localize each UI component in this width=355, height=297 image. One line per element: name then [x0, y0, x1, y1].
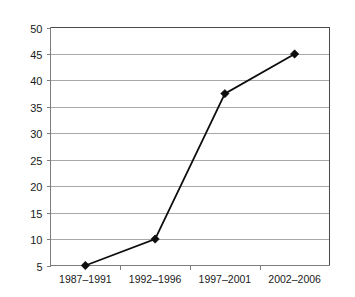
- y-tick-label: 30: [30, 128, 42, 140]
- chart-canvas: 5101520253035404550 1987–19911992–199619…: [0, 0, 355, 297]
- y-tick-label: 20: [30, 181, 42, 193]
- y-tick-label: 35: [30, 102, 42, 114]
- line-chart: 5101520253035404550 1987–19911992–199619…: [0, 0, 355, 297]
- y-tick-label: 50: [30, 23, 42, 35]
- x-tick-label: 2002–2006: [268, 273, 321, 285]
- y-tick-label: 5: [36, 261, 42, 273]
- y-tick-label: 40: [30, 75, 42, 87]
- chart-background: [0, 0, 355, 297]
- y-tick-label: 15: [30, 208, 42, 220]
- x-tick-label: 1997–2001: [199, 273, 252, 285]
- x-tick-label: 1987–1991: [59, 273, 112, 285]
- y-tick-label: 45: [30, 49, 42, 61]
- y-tick-label: 25: [30, 155, 42, 167]
- y-tick-label: 10: [30, 234, 42, 246]
- x-tick-label: 1992–1996: [129, 273, 182, 285]
